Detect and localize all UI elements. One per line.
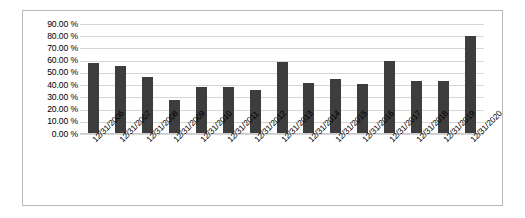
bar[interactable] [142,77,153,134]
bar[interactable] [88,63,99,135]
y-axis-tick-label: 0.00 % [26,130,78,139]
x-axis: 12/31/200612/31/200712/31/200812/31/2009… [80,134,484,196]
x-axis-slot: 12/31/2011 [215,134,242,196]
y-axis-tick-label: 70.00 % [26,44,78,53]
y-axis-tick-label: 80.00 % [26,32,78,41]
x-axis-slot: 12/31/2018 [403,134,430,196]
y-axis-tick-label: 20.00 % [26,105,78,114]
x-axis-slot: 12/31/2008 [134,134,161,196]
x-axis-slot: 12/31/2010 [188,134,215,196]
x-axis-slot: 12/31/2020 [457,134,484,196]
x-axis-slot: 12/31/2007 [107,134,134,196]
bar[interactable] [411,81,422,134]
bar[interactable] [330,79,341,134]
x-axis-slot: 12/31/2019 [430,134,457,196]
y-axis-tick-label: 50.00 % [26,68,78,77]
y-axis-tick-label: 10.00 % [26,117,78,126]
x-axis-slot: 12/31/2012 [242,134,269,196]
x-axis-slot: 12/31/2015 [322,134,349,196]
bar-chart-figure: 90.00 %80.00 %70.00 %60.00 %50.00 %40.00… [0,0,525,218]
x-axis-slot: 12/31/2016 [349,134,376,196]
x-axis-slot: 12/31/2006 [80,134,107,196]
x-axis-slot: 12/31/2009 [161,134,188,196]
x-axis-slot: 12/31/2017 [376,134,403,196]
y-axis-tick-label: 40.00 % [26,81,78,90]
y-axis-tick-label: 30.00 % [26,93,78,102]
bar-slot [80,24,107,134]
y-axis-tick-label: 60.00 % [26,56,78,65]
y-axis: 90.00 %80.00 %70.00 %60.00 %50.00 %40.00… [26,19,78,141]
x-axis-slot: 12/31/2013 [269,134,296,196]
y-axis-tick-label: 90.00 % [26,20,78,29]
x-axis-slot: 12/31/2014 [296,134,323,196]
